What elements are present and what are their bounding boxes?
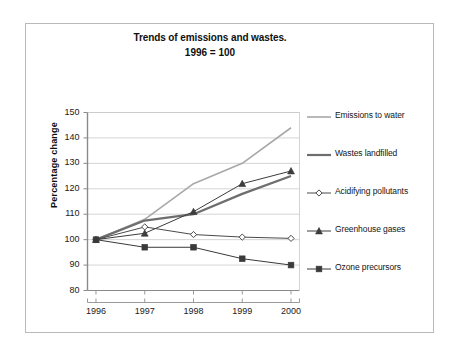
y-tick-label-90: 90 xyxy=(54,259,80,269)
x-tick-label-2000: 2000 xyxy=(271,306,311,316)
x-tick-label-1999: 1999 xyxy=(222,306,262,316)
marker-triangle xyxy=(190,208,197,214)
marker-triangle xyxy=(141,230,148,236)
chart-svg xyxy=(0,0,460,355)
marker-square xyxy=(142,244,148,250)
legend-label: Ozone precursors xyxy=(335,262,401,272)
legend-label: Acidifying pollutants xyxy=(335,186,408,196)
marker-square xyxy=(288,262,294,268)
marker-square xyxy=(239,256,245,262)
plot-area xyxy=(0,0,460,355)
x-tick-label-1996: 1996 xyxy=(76,306,116,316)
legend-item-3[interactable]: Greenhouse gases xyxy=(306,222,405,236)
legend-swatch-line-icon xyxy=(306,147,332,159)
legend-label: Wastes landfilled xyxy=(335,148,397,158)
legend-swatch-triangle-icon xyxy=(306,223,332,235)
y-tick-label-100: 100 xyxy=(54,234,80,244)
legend-swatch-diamond-icon xyxy=(306,185,332,197)
marker-diamond xyxy=(190,231,196,237)
legend-item-2[interactable]: Acidifying pollutants xyxy=(306,184,408,198)
marker-square xyxy=(191,244,197,250)
series-0 xyxy=(96,128,291,240)
legend-item-1[interactable]: Wastes landfilled xyxy=(306,146,397,160)
marker-triangle xyxy=(288,168,295,174)
y-tick-label-120: 120 xyxy=(54,183,80,193)
screenshot-canvas: Trends of emissions and wastes. 1996 = 1… xyxy=(0,0,460,355)
legend-item-0[interactable]: Emissions to water xyxy=(306,108,405,122)
series-line xyxy=(96,240,291,265)
series-4 xyxy=(93,237,294,268)
y-tick-label-140: 140 xyxy=(54,132,80,142)
legend-swatch-square-icon xyxy=(306,261,332,273)
series-line xyxy=(96,128,291,240)
y-tick-label-110: 110 xyxy=(54,208,80,218)
y-tick-label-150: 150 xyxy=(54,107,80,117)
marker-diamond xyxy=(142,224,148,230)
x-tick-label-1998: 1998 xyxy=(174,306,214,316)
y-tick-label-80: 80 xyxy=(54,285,80,295)
legend-item-4[interactable]: Ozone precursors xyxy=(306,260,401,274)
marker-diamond xyxy=(316,190,322,196)
legend-label: Emissions to water xyxy=(335,110,405,120)
marker-square xyxy=(316,266,322,272)
legend-label: Greenhouse gases xyxy=(335,224,405,234)
x-tick-label-1997: 1997 xyxy=(125,306,165,316)
y-tick-label-130: 130 xyxy=(54,157,80,167)
marker-square xyxy=(93,237,99,243)
marker-diamond xyxy=(288,235,294,241)
legend-swatch-line-icon xyxy=(306,109,332,121)
